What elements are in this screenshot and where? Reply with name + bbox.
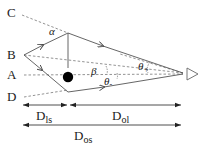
label-theta-minus: θ-	[104, 75, 112, 89]
label-dol: Dol	[112, 108, 129, 125]
observer-icon	[187, 68, 198, 80]
arc-beta	[106, 66, 107, 74]
label-beta: β	[90, 65, 97, 77]
ray-top-to-observer	[68, 33, 103, 46]
ray-b-down	[24, 55, 42, 70]
arc-theta-minus	[117, 73, 118, 79]
label-d: D	[7, 89, 16, 104]
lens-mass	[63, 72, 73, 82]
dashed-lines	[22, 15, 183, 97]
label-a: A	[7, 67, 17, 82]
line-b-to-observer	[24, 55, 183, 73]
label-dos: Dos	[74, 128, 92, 145]
label-dls: Dls	[36, 108, 52, 125]
label-b: B	[7, 47, 16, 62]
ray-b-up	[24, 45, 43, 55]
label-c: C	[7, 5, 16, 20]
line-d-to-vertex	[24, 90, 68, 97]
line-c-to-vertex	[22, 15, 68, 33]
label-alpha: α	[49, 25, 55, 37]
lensing-diagram: C B A D α β θ+ θ- Dls Dol Dos	[0, 0, 206, 145]
ray-bottom-to-observer	[68, 87, 104, 92]
